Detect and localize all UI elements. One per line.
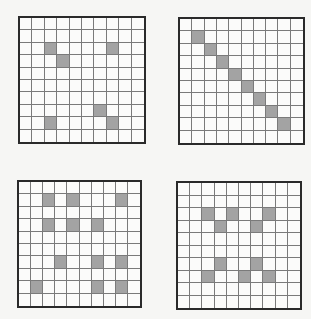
grid-cell (266, 31, 278, 43)
grid-cell (217, 69, 229, 81)
grid-cell (32, 130, 44, 142)
grid-cell (192, 93, 204, 105)
grid-cell (55, 182, 67, 194)
grid-cell (31, 256, 43, 268)
grid-cell (104, 294, 116, 306)
grid-cell (45, 68, 57, 80)
grid-cell (43, 244, 55, 256)
grid-cell (70, 80, 82, 92)
grid-cell (45, 92, 57, 104)
grid-cell (202, 283, 214, 296)
grid-cell (190, 208, 202, 221)
grid-cell (178, 183, 190, 196)
grid-cell (94, 55, 106, 67)
grid-cell (242, 69, 254, 81)
grid-cell (19, 232, 31, 244)
grid-cell (180, 31, 192, 43)
grid-cell (43, 207, 55, 219)
shaded-cell (92, 219, 104, 231)
shaded-cell (45, 43, 57, 55)
grid-cell (82, 80, 94, 92)
grid-cell (67, 281, 79, 293)
grid-cell (288, 208, 300, 221)
grid-cell (82, 68, 94, 80)
grid-cell (57, 117, 69, 129)
grid-cell (202, 183, 214, 196)
grid-cell (202, 221, 214, 234)
grid-cell (278, 81, 290, 93)
grid-cell (276, 208, 288, 221)
grid-cell (254, 44, 266, 56)
grid-cell (128, 281, 140, 293)
shaded-cell (215, 221, 227, 234)
grid-cell (266, 93, 278, 105)
grid-cell (31, 182, 43, 194)
grid-cell (94, 80, 106, 92)
grid-bottom-left (17, 180, 142, 308)
grid-cell (215, 283, 227, 296)
grid-cell (119, 80, 131, 92)
grid-cell (178, 221, 190, 234)
grid-cell (263, 283, 275, 296)
grid-top-right (178, 17, 305, 145)
grid-cell (254, 56, 266, 68)
grid-cell (116, 294, 128, 306)
grid-cell (19, 194, 31, 206)
grid-cell (104, 207, 116, 219)
grid-cell (215, 233, 227, 246)
grid-cell (278, 31, 290, 43)
shaded-cell (229, 69, 241, 81)
grid-cell (254, 69, 266, 81)
grid-cell (242, 93, 254, 105)
grid-cell (19, 256, 31, 268)
grid-cell (276, 233, 288, 246)
grid-cell (128, 294, 140, 306)
grid-cell (20, 55, 32, 67)
grid-cell (192, 56, 204, 68)
grid-cell (251, 296, 263, 309)
grid-cell (242, 118, 254, 130)
grid-cell (20, 105, 32, 117)
grid-cell (128, 244, 140, 256)
grid-cell (178, 208, 190, 221)
grid-cell (227, 221, 239, 234)
grid-cell (291, 131, 303, 143)
grid-cell (132, 68, 144, 80)
grid-cell (80, 294, 92, 306)
grid-cell (276, 271, 288, 284)
grid-cell (67, 294, 79, 306)
grid-cell (276, 221, 288, 234)
grid-cell (94, 18, 106, 30)
grid-cell (229, 118, 241, 130)
grid-cell (43, 294, 55, 306)
grid-cell (288, 296, 300, 309)
grid-cell (128, 207, 140, 219)
shaded-cell (57, 55, 69, 67)
grid-cell (242, 31, 254, 43)
grid-cell (239, 208, 251, 221)
shaded-cell (116, 194, 128, 206)
grid-cell (119, 43, 131, 55)
grid-cell (276, 196, 288, 209)
grid-cell (20, 43, 32, 55)
grid-cell (31, 294, 43, 306)
grid-cell (45, 18, 57, 30)
grid-cell (229, 81, 241, 93)
grid-cell (104, 232, 116, 244)
grid-cell (266, 19, 278, 31)
grid-cell (128, 182, 140, 194)
grid-cell (263, 296, 275, 309)
grid-cell (202, 296, 214, 309)
grid-cell (217, 118, 229, 130)
grid-cell (180, 19, 192, 31)
grid-cell (92, 294, 104, 306)
grid-cell (288, 283, 300, 296)
grid-cell (57, 43, 69, 55)
grid-cell (278, 131, 290, 143)
grid-cell (43, 281, 55, 293)
grid-cell (202, 246, 214, 259)
grid-cell (80, 219, 92, 231)
grid-cell (45, 55, 57, 67)
grid-cell (116, 244, 128, 256)
grid-cell (266, 44, 278, 56)
